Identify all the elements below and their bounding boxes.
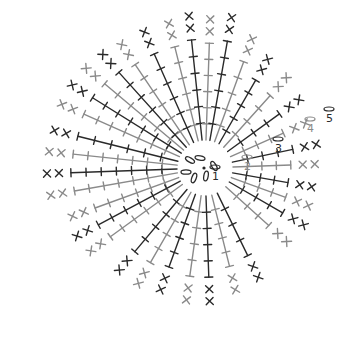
spoke [203,16,214,140]
spoke [86,184,182,255]
spoke [57,100,179,157]
spoke [229,182,308,230]
spoke [117,40,189,145]
spoke [224,73,292,147]
round-label: 3 [275,142,282,155]
spoke [72,181,180,241]
crochet-chart: 12345 [0,0,353,353]
round-label: 4 [307,122,314,135]
spoke [182,196,202,304]
chart-spokes [43,12,320,305]
spoke [231,119,310,157]
spoke [185,12,204,140]
spoke [43,166,177,178]
spoke [203,196,214,305]
spoke [45,148,177,168]
spoke [231,178,312,211]
slip-stitch-dot [202,166,205,169]
spoke [156,194,195,294]
spoke [67,80,181,153]
chain-oval [181,170,191,174]
chain-oval [195,155,206,161]
chain-oval [324,107,334,111]
round-label: 5 [326,112,333,125]
chain-oval [185,156,196,165]
round-label: 1 [212,170,219,183]
chain-oval [203,171,209,182]
spoke [165,19,199,140]
chain-oval [190,173,198,184]
round-label: 2 [244,160,251,173]
spoke [219,55,273,144]
spoke [50,126,178,161]
spoke [215,35,257,142]
spoke [81,63,183,150]
spoke [228,95,304,152]
chain-oval [273,137,283,141]
